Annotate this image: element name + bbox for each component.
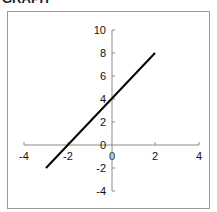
y-tick-label: -4	[96, 185, 106, 197]
y-tick-label: 8	[100, 47, 106, 59]
x-tick-label: -4	[19, 150, 29, 162]
y-axis: 10 8 6 4 2 0 -2 -4	[94, 24, 115, 197]
chart-plot: -4 -2 0 2 4 10 8 6 4 2 0 -2 -4	[0, 0, 217, 212]
y-tick-label: 4	[100, 93, 106, 105]
y-tick-label: 6	[100, 70, 106, 82]
y-tick-label: 2	[100, 116, 106, 128]
x-axis: -4 -2 0 2 4	[19, 142, 202, 162]
x-tick-label: 4	[196, 150, 202, 162]
x-tick-label: 2	[152, 150, 158, 162]
y-tick-label: 0	[100, 139, 106, 151]
y-tick-label: -2	[96, 162, 106, 174]
y-tick-label: 10	[94, 24, 106, 36]
x-tick-label: -2	[63, 150, 73, 162]
